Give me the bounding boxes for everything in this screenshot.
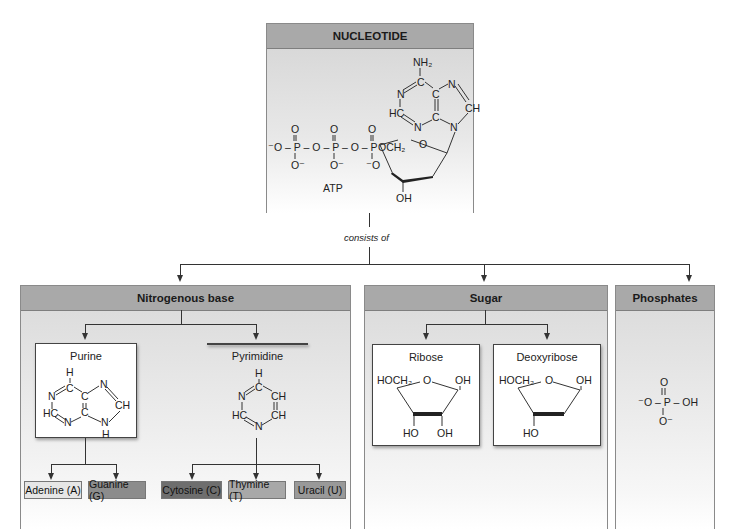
atom-o-minus: O⁻ xyxy=(659,416,673,427)
phosphate-formula: ⁻O – P – OH xyxy=(638,397,698,408)
phosphate-bonds xyxy=(0,0,735,529)
